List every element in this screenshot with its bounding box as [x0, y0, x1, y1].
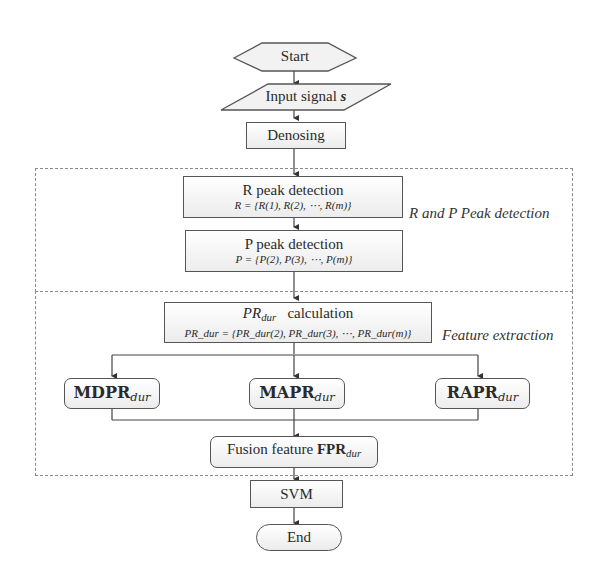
rapr-sub: dur [498, 390, 518, 404]
start-label: Start [281, 48, 309, 64]
fusion-main: FPR [317, 441, 346, 457]
mapr-sub: dur [315, 390, 335, 404]
denoising-node: Denosing [246, 122, 346, 149]
input-var: s [341, 88, 347, 104]
pr-calc-node: PRdur calculation PR_dur = {PR_dur(2), P… [164, 302, 432, 343]
pr-calc-formula: PR_dur = {PR_dur(2), PR_dur(3), ⋯, PR_du… [184, 327, 411, 340]
mapr-label: MAPR [259, 383, 314, 402]
input-label: Input signal [266, 88, 337, 104]
fusion-node: Fusion feature FPRdur [210, 436, 378, 468]
fusion-label: Fusion feature [227, 441, 313, 457]
feature-mapr-node: MAPRdur [249, 378, 345, 409]
r-peak-node: R peak detection R = {R(1), R(2), ⋯, R(m… [183, 176, 403, 218]
mdpr-label: MDPR [73, 383, 130, 402]
pr-calc-title: PRdur calculation [243, 305, 353, 326]
pr-calc-label: calculation [287, 305, 353, 321]
r-peak-formula: R = {R(1), R(2), ⋯, R(m)} [234, 199, 351, 212]
svm-node: SVM [250, 480, 343, 508]
mdpr-sub: dur [130, 390, 150, 404]
fusion-sub: dur [346, 448, 361, 460]
pr-var: PR [243, 305, 261, 321]
end-label: End [287, 529, 311, 546]
denoising-label: Denosing [267, 127, 325, 144]
pr-sub: dur [261, 312, 276, 324]
end-node: End [256, 524, 342, 551]
svm-label: SVM [280, 486, 313, 503]
feature-rapr-node: RAPRdur [435, 378, 530, 409]
r-peak-label: R peak detection [243, 182, 344, 199]
input-node: Input signal s [230, 88, 382, 105]
start-node: Start [234, 48, 356, 65]
rapr-label: RAPR [447, 383, 498, 402]
p-peak-formula: P = {P(2), P(3), ⋯, P(m)} [236, 253, 353, 266]
feature-mdpr-node: MDPRdur [64, 378, 160, 409]
p-peak-label: P peak detection [245, 236, 344, 253]
p-peak-node: P peak detection P = {P(2), P(3), ⋯, P(m… [185, 230, 403, 272]
